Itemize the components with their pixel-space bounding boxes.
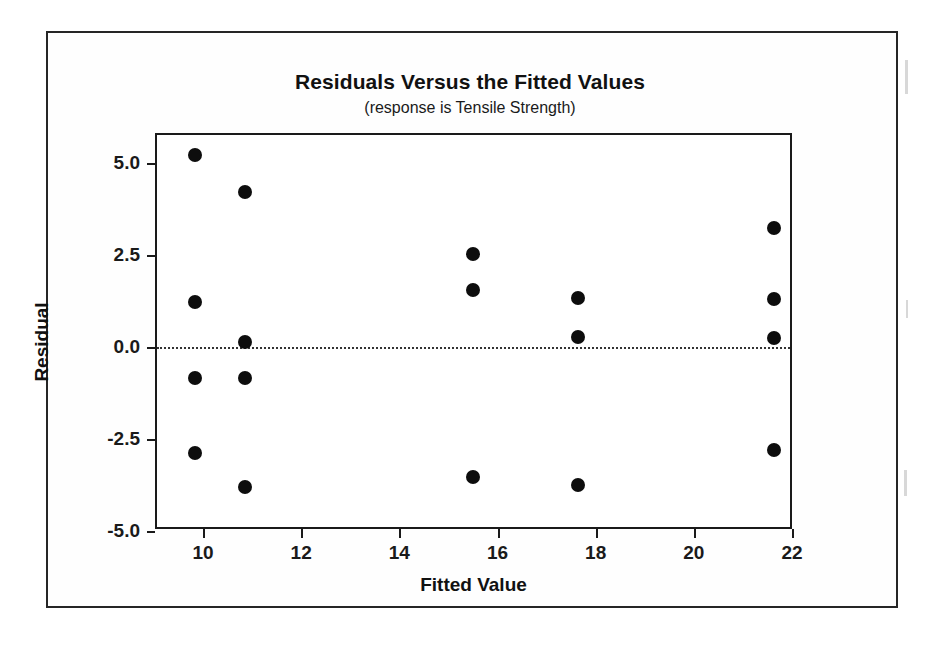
data-point (238, 371, 252, 385)
x-tick-label: 18 (571, 542, 621, 564)
data-point (238, 335, 252, 349)
data-point (571, 478, 585, 492)
y-tick-mark (147, 439, 155, 441)
data-point (188, 371, 202, 385)
x-tick-label: 20 (669, 542, 719, 564)
data-point (188, 295, 202, 309)
y-tick-label: -2.5 (78, 428, 140, 450)
x-tick-mark (792, 529, 794, 538)
x-tick-label: 14 (374, 542, 424, 564)
data-point (767, 292, 781, 306)
data-point (571, 330, 585, 344)
x-tick-label: 16 (473, 542, 523, 564)
y-axis-title: Residual (31, 262, 53, 422)
y-tick-label: -5.0 (78, 520, 140, 542)
data-point (188, 446, 202, 460)
data-point (466, 470, 480, 484)
x-tick-mark (203, 529, 205, 538)
y-tick-mark (147, 163, 155, 165)
data-point (238, 185, 252, 199)
x-tick-mark (498, 529, 500, 538)
data-point (767, 331, 781, 345)
x-tick-mark (399, 529, 401, 538)
x-tick-mark (596, 529, 598, 538)
y-tick-mark (147, 531, 155, 533)
y-tick-mark (147, 255, 155, 257)
data-point (767, 221, 781, 235)
y-tick-label: 5.0 (78, 152, 140, 174)
chart-title: Residuals Versus the Fitted Values (0, 70, 940, 94)
data-point (188, 148, 202, 162)
data-point (238, 480, 252, 494)
x-axis-title: Fitted Value (155, 574, 792, 596)
scan-artifact (904, 470, 907, 496)
data-point (466, 283, 480, 297)
data-point (466, 247, 480, 261)
scan-artifact (906, 300, 908, 318)
x-tick-mark (694, 529, 696, 538)
x-tick-label: 12 (276, 542, 326, 564)
plot-inner (157, 135, 790, 527)
y-tick-label: 2.5 (78, 244, 140, 266)
zero-reference-line (157, 347, 790, 349)
x-tick-mark (301, 529, 303, 538)
scan-artifact (905, 60, 908, 94)
data-point (571, 291, 585, 305)
y-tick-label: 0.0 (78, 336, 140, 358)
data-point (767, 443, 781, 457)
x-tick-label: 22 (767, 542, 817, 564)
x-tick-label: 10 (178, 542, 228, 564)
y-tick-mark (147, 347, 155, 349)
plot-area (155, 133, 792, 529)
residual-scatter-chart: Residuals Versus the Fitted Values (resp… (0, 0, 940, 652)
chart-subtitle: (response is Tensile Strength) (0, 99, 940, 117)
